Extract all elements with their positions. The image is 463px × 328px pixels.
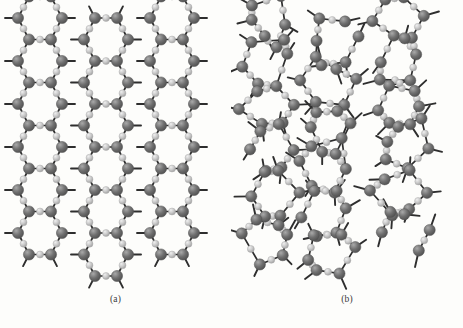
oxygen-atom — [380, 25, 387, 32]
silicon-atom — [345, 118, 356, 129]
oxygen-atom — [20, 111, 27, 118]
silicon-atom — [423, 143, 434, 154]
oxygen-atom — [86, 68, 93, 75]
silicon-atom — [413, 101, 424, 112]
oxygen-atom — [86, 111, 93, 118]
silicon-atom — [188, 98, 199, 109]
oxygen-atom — [152, 111, 159, 118]
oxygen-atom — [169, 165, 176, 172]
silicon-atom — [111, 12, 122, 23]
oxygen-atom — [302, 150, 309, 157]
silicon-atom — [12, 98, 23, 109]
oxygen-atom — [20, 154, 27, 161]
silicon-atom — [375, 57, 386, 68]
silicon-atom — [144, 184, 155, 195]
oxygen-atom — [103, 144, 110, 151]
oxygen-atom — [383, 147, 390, 154]
silicon-atom — [188, 141, 199, 152]
silicon-atom — [399, 209, 410, 220]
oxygen-atom — [20, 68, 27, 75]
oxygen-atom — [268, 256, 275, 263]
oxygen-atom — [86, 47, 93, 54]
oxygen-atom — [119, 176, 126, 183]
panel-crystalline — [0, 0, 231, 290]
silicon-atom — [78, 34, 89, 45]
silicon-atom — [382, 136, 393, 147]
silicon-atom — [144, 55, 155, 66]
silicon-atom — [122, 206, 133, 217]
oxygen-atom — [53, 154, 60, 161]
oxygen-atom — [185, 111, 192, 118]
oxygen-atom — [152, 47, 159, 54]
oxygen-atom — [185, 25, 192, 32]
silicon-atom — [340, 163, 351, 174]
oxygen-atom — [119, 197, 126, 204]
silicon-atom — [409, 85, 420, 96]
silicon-atom — [273, 119, 284, 130]
oxygen-atom — [20, 90, 27, 97]
silicon-atom — [282, 229, 293, 240]
silicon-atom — [233, 104, 244, 115]
silicon-atom — [314, 13, 325, 24]
oxygen-atom — [185, 197, 192, 204]
silicon-atom — [330, 148, 341, 159]
oxygen-atom — [278, 66, 285, 73]
silicon-atom — [310, 51, 321, 62]
silicon-atom — [12, 227, 23, 238]
silicon-atom — [244, 144, 255, 155]
silicon-atom — [259, 30, 270, 41]
silicon-atom — [288, 144, 299, 155]
oxygen-atom — [86, 262, 93, 269]
silicon-atom — [317, 146, 328, 157]
silicon-atom — [399, 33, 410, 44]
oxygen-atom — [169, 251, 176, 258]
oxygen-atom — [86, 197, 93, 204]
silicon-atom — [388, 30, 399, 41]
oxygen-atom — [255, 24, 262, 31]
oxygen-atom — [37, 79, 44, 86]
silicon-atom — [78, 120, 89, 131]
oxygen-atom — [393, 160, 400, 167]
oxygen-atom — [119, 133, 126, 140]
oxygen-atom — [384, 45, 391, 52]
silicon-atom — [111, 141, 122, 152]
oxygen-atom — [243, 51, 250, 58]
silicon-atom — [89, 184, 100, 195]
oxygen-atom — [152, 240, 159, 247]
silicon-atom — [177, 34, 188, 45]
oxygen-atom — [37, 36, 44, 43]
silicon-atom — [45, 249, 56, 260]
oxygen-atom — [263, 0, 270, 4]
oxygen-atom — [247, 113, 254, 120]
silicon-atom — [237, 61, 248, 72]
silicon-atom — [376, 227, 387, 238]
silicon-atom — [89, 141, 100, 152]
oxygen-atom — [324, 231, 331, 238]
oxygen-atom — [374, 181, 381, 188]
oxygen-atom — [86, 90, 93, 97]
oxygen-atom — [304, 201, 311, 208]
oxygen-atom — [327, 100, 334, 107]
oxygen-atom — [86, 240, 93, 247]
oxygen-atom — [263, 85, 270, 92]
silicon-atom — [309, 185, 320, 196]
oxygen-atom — [304, 65, 311, 72]
oxygen-atom — [119, 25, 126, 32]
oxygen-atom — [394, 171, 401, 178]
oxygen-atom — [53, 176, 60, 183]
silicon-atom — [384, 80, 395, 91]
oxygen-atom — [103, 187, 110, 194]
oxygen-atom — [185, 240, 192, 247]
silicon-atom — [367, 15, 378, 26]
oxygen-atom — [53, 133, 60, 140]
oxygen-atom — [53, 219, 60, 226]
silicon-atom — [188, 184, 199, 195]
silicon-atom — [340, 203, 351, 214]
silicon-atom — [12, 141, 23, 152]
silicon-atom — [405, 119, 416, 130]
silicon-atom — [236, 228, 247, 239]
silicon-atom — [340, 57, 351, 68]
oxygen-atom — [185, 176, 192, 183]
silicon-atom — [155, 163, 166, 174]
oxygen-atom — [119, 47, 126, 54]
